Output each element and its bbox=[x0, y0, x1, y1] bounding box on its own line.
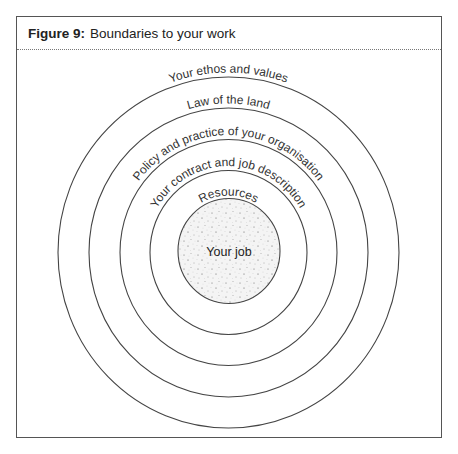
core-label-your-job: Your job bbox=[206, 245, 251, 259]
ring-label-ethos-values: Your ethos and values bbox=[167, 61, 290, 85]
ring-label-policy-practice: Policy and practice of your organisation bbox=[130, 124, 327, 183]
ring-label-law-of-land: Law of the land bbox=[185, 92, 271, 112]
boundaries-diagram: Your ethos and values Law of the land Po… bbox=[0, 0, 458, 454]
